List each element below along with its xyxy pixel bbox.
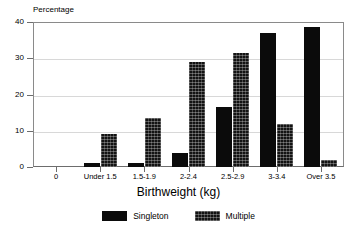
bar-group <box>211 22 255 167</box>
x-axis-tick-label: 1.5-1.9 <box>133 172 156 182</box>
bar-group <box>122 22 166 167</box>
bar-multiple-2 <box>145 118 161 167</box>
bar-multiple-1 <box>101 134 117 167</box>
x-axis-title: Birthweight (kg) <box>0 184 357 200</box>
bar-multiple-4 <box>233 53 249 167</box>
y-axis-title: Percentage <box>33 5 74 15</box>
bar-group <box>34 22 78 167</box>
bar-group <box>299 22 343 167</box>
legend-label: Singleton <box>133 211 168 221</box>
bar-multiple-5 <box>277 124 293 168</box>
x-axis-tick-labels: 0Under 1.51.5-1.92-2.42.5-2.93-3.4Over 3… <box>34 172 343 184</box>
x-axis-tick-label: 3-3.4 <box>268 172 285 182</box>
y-axis-tick <box>27 22 33 23</box>
bar-chart-figure: Percentage 010203040 0Under 1.51.5-1.92-… <box>0 0 357 236</box>
y-axis-tick-label: 20 <box>0 91 24 99</box>
bar-multiple-6 <box>321 160 337 167</box>
y-axis-tick-label: 40 <box>0 18 24 26</box>
x-axis-tick-label: 0 <box>54 172 58 182</box>
legend-label: Multiple <box>226 211 255 221</box>
hatched-black-swatch <box>195 211 220 221</box>
legend-item-singleton: Singleton <box>102 211 168 221</box>
bar-group <box>78 22 122 167</box>
y-axis-tick <box>27 167 33 168</box>
bar-singleton-6 <box>304 27 320 167</box>
x-axis-tick-label: Under 1.5 <box>84 172 117 182</box>
legend-item-multiple: Multiple <box>195 211 255 221</box>
bar-singleton-3 <box>172 153 188 167</box>
bar-singleton-5 <box>260 33 276 167</box>
bar-singleton-4 <box>216 107 232 167</box>
y-axis-tick <box>27 131 33 132</box>
chart-legend: SingletonMultiple <box>0 211 357 221</box>
y-axis-tick <box>27 95 33 96</box>
bar-multiple-3 <box>189 62 205 167</box>
bar-group <box>255 22 299 167</box>
x-axis-tick-label: Over 3.5 <box>307 172 336 182</box>
x-axis-tick-label: 2.5-2.9 <box>221 172 244 182</box>
solid-black-swatch <box>102 211 127 221</box>
bars-layer <box>34 22 343 167</box>
y-axis-tick <box>27 58 33 59</box>
y-axis-tick-label: 30 <box>0 54 24 62</box>
y-axis-tick-label: 10 <box>0 127 24 135</box>
x-axis-tick-label: 2-2.4 <box>180 172 197 182</box>
bar-group <box>166 22 210 167</box>
y-axis-tick-label: 0 <box>0 163 24 171</box>
